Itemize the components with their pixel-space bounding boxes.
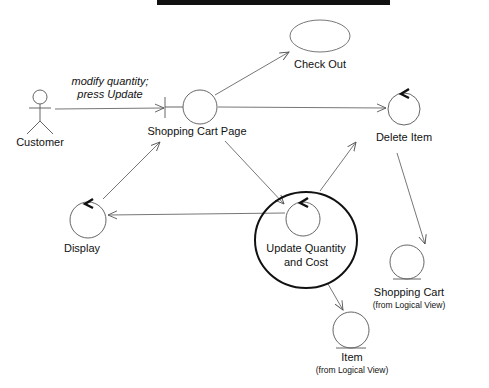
item-sublabel: (from Logical View) xyxy=(316,366,389,375)
actor-customer-icon xyxy=(27,90,53,134)
shopping-cart-sublabel: (from Logical View) xyxy=(373,301,446,310)
shopping-cart-page-label: Shopping Cart Page xyxy=(147,126,246,137)
diagram-canvas xyxy=(0,0,489,388)
check-out-label: Check Out xyxy=(294,59,346,70)
delete-item-label: Delete Item xyxy=(376,132,432,143)
boundary-object-icon xyxy=(165,90,217,124)
edge-cart-page-to-delete xyxy=(218,107,386,108)
edge-update-to-display xyxy=(108,213,285,215)
message-line2: press Update xyxy=(77,89,142,100)
update-quantity-label-1: Update Quantity xyxy=(266,243,346,254)
entity-shopping-cart-icon xyxy=(390,245,424,279)
customer-label: Customer xyxy=(16,137,64,148)
edge-cart-page-to-update xyxy=(225,141,284,204)
edge-customer-to-cart-page xyxy=(55,108,164,109)
edge-update-to-delete xyxy=(320,142,356,191)
check-out-use-case xyxy=(290,20,350,52)
control-object-update-icon xyxy=(286,198,320,236)
message-line1: modify quantity; xyxy=(71,76,148,87)
edge-update-to-item xyxy=(328,284,343,310)
shopping-cart-label: Shopping Cart xyxy=(374,287,444,298)
control-object-delete-icon xyxy=(388,89,420,125)
update-quantity-label-2: and Cost xyxy=(284,257,328,268)
item-label: Item xyxy=(341,352,362,363)
display-label: Display xyxy=(64,243,100,254)
edge-delete-to-shopping-cart xyxy=(397,153,425,244)
entity-item-icon xyxy=(333,312,369,348)
edge-cart-page-to-checkout xyxy=(215,52,289,95)
edge-display-to-cart-page xyxy=(103,142,160,199)
control-object-display-icon xyxy=(70,199,106,238)
